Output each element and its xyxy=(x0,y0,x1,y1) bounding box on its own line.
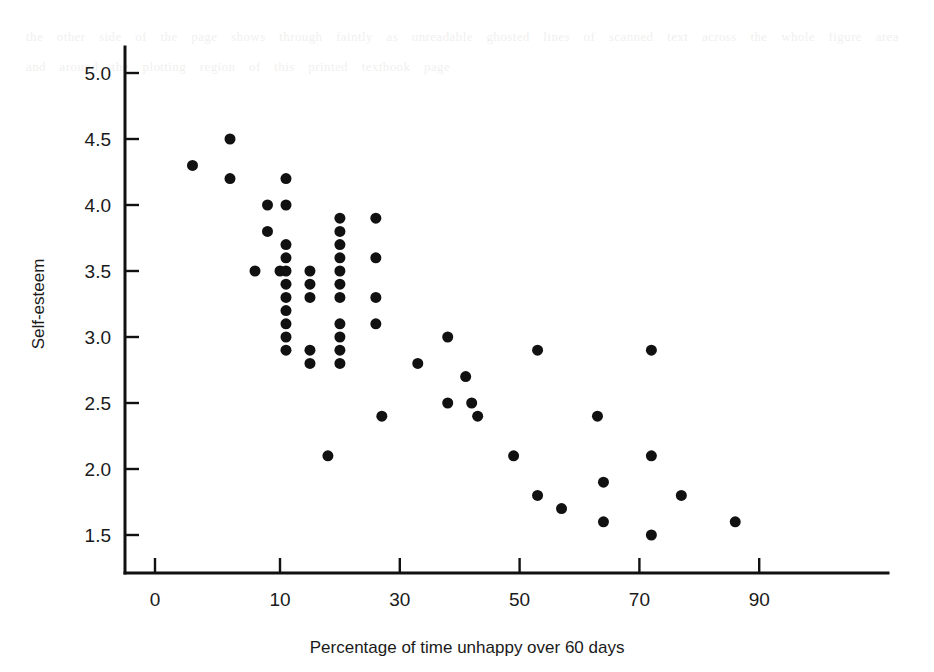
data-point xyxy=(280,252,291,263)
data-point xyxy=(250,266,261,277)
datapoint-group xyxy=(187,134,741,541)
data-point xyxy=(508,450,519,461)
data-point xyxy=(376,411,387,422)
y-tick-label: 2.5 xyxy=(85,393,111,414)
data-point xyxy=(334,345,345,356)
data-point xyxy=(280,332,291,343)
data-point xyxy=(334,358,345,369)
y-tick-label: 1.5 xyxy=(85,525,111,546)
data-point xyxy=(304,358,315,369)
data-point xyxy=(334,226,345,237)
y-tick-label: 4.0 xyxy=(85,195,111,216)
data-point xyxy=(592,411,603,422)
x-tick-label: 50 xyxy=(509,589,530,610)
data-point xyxy=(304,345,315,356)
data-point xyxy=(370,318,381,329)
data-point xyxy=(442,398,453,409)
data-point xyxy=(598,477,609,488)
y-tick-label: 5.0 xyxy=(85,63,111,84)
data-point xyxy=(304,266,315,277)
data-point xyxy=(472,411,483,422)
data-point xyxy=(280,279,291,290)
data-point xyxy=(334,318,345,329)
data-point xyxy=(225,173,236,184)
data-point xyxy=(280,292,291,303)
y-axis-title: Self-esteem xyxy=(29,259,48,350)
x-tick-label: 0 xyxy=(150,589,161,610)
data-point xyxy=(334,266,345,277)
data-point xyxy=(334,279,345,290)
data-point xyxy=(334,332,345,343)
data-point xyxy=(304,279,315,290)
data-point xyxy=(280,345,291,356)
data-point xyxy=(262,200,273,211)
data-point xyxy=(280,318,291,329)
data-point xyxy=(334,292,345,303)
data-point xyxy=(532,345,543,356)
plot-canvas: 1.52.02.53.03.54.04.55.001030507090Perce… xyxy=(0,0,934,672)
data-point xyxy=(187,160,198,171)
y-tick-label: 4.5 xyxy=(85,129,111,150)
data-point xyxy=(598,516,609,527)
x-tick-label: 30 xyxy=(389,589,410,610)
y-tick-label: 2.0 xyxy=(85,459,111,480)
data-point xyxy=(466,398,477,409)
x-tick-label: 70 xyxy=(629,589,650,610)
data-point xyxy=(280,266,291,277)
data-point xyxy=(304,292,315,303)
data-point xyxy=(460,371,471,382)
data-point xyxy=(280,239,291,250)
data-point xyxy=(225,134,236,145)
data-point xyxy=(322,450,333,461)
data-point xyxy=(646,530,657,541)
y-tick-label: 3.5 xyxy=(85,261,111,282)
scatter-plot-figure: the other side of the page shows through… xyxy=(0,0,934,672)
x-tick-label: 90 xyxy=(749,589,770,610)
data-point xyxy=(676,490,687,501)
data-point xyxy=(370,213,381,224)
data-point xyxy=(334,239,345,250)
data-point xyxy=(370,252,381,263)
data-point xyxy=(280,173,291,184)
data-point xyxy=(262,226,273,237)
data-point xyxy=(280,200,291,211)
data-point xyxy=(646,345,657,356)
data-point xyxy=(412,358,423,369)
data-point xyxy=(646,450,657,461)
data-point xyxy=(532,490,543,501)
data-point xyxy=(730,516,741,527)
data-point xyxy=(442,332,453,343)
data-point xyxy=(370,292,381,303)
x-tick-label: 10 xyxy=(269,589,290,610)
data-point xyxy=(556,503,567,514)
data-point xyxy=(334,213,345,224)
data-point xyxy=(334,252,345,263)
y-tick-label: 3.0 xyxy=(85,327,111,348)
x-axis-title: Percentage of time unhappy over 60 days xyxy=(310,638,625,657)
data-point xyxy=(280,305,291,316)
